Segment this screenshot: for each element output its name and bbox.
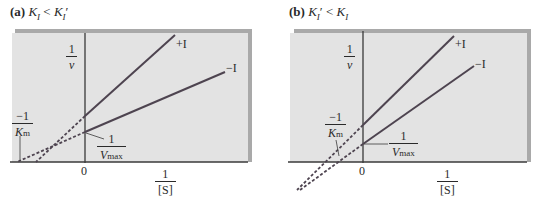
panel-b-vmax-label: 1Vmax — [389, 130, 418, 158]
panel-a-y-label-num: 1 — [67, 43, 77, 56]
panel-b-title-k1-prime: ′ — [320, 4, 323, 19]
panel-a-title: (a) KI < KI′ — [10, 4, 68, 22]
panel-b-km-den-sub: m — [336, 129, 343, 139]
panel-a-y-label-den: v — [66, 56, 77, 71]
panel-a-x-label-den: [S] — [155, 181, 176, 196]
panel-b-title: (b) KI′ < KI — [289, 4, 348, 22]
panel-a-title-k1-sub: I — [37, 12, 40, 22]
panel-b-title-k2: K — [337, 4, 346, 19]
panel-b-x-label-den: [S] — [437, 181, 458, 196]
panel-a-plus-inhibitor-label: +I — [176, 38, 187, 50]
panel-a-title-operator: < — [43, 4, 50, 19]
panel-b-vmax-num: 1 — [398, 130, 408, 143]
panel-a-title-k2-prime: ′ — [66, 4, 69, 19]
panel-b-km-num: −1 — [327, 111, 344, 124]
panel-b-y-label-den: v — [344, 56, 355, 71]
panel-b-plus-inhibitor-label: +I — [455, 38, 466, 50]
panel-a-km-num: −1 — [14, 110, 31, 123]
panel-b-title-operator: < — [326, 4, 333, 19]
panel-b-y-axis-label: 1v — [344, 43, 355, 71]
panel-b-title-k2-sub: I — [345, 12, 348, 22]
panel-b-vmax-den-sub: max — [399, 148, 415, 158]
panel-b-x-axis-label: 1[S] — [437, 168, 458, 196]
panel-b-x-label-num: 1 — [442, 168, 452, 181]
panel-b-title-k1: K — [308, 4, 317, 19]
panel-a-plot — [10, 29, 252, 163]
panel-a-title-k1: K — [28, 4, 37, 19]
panel-a-km-den: K — [15, 125, 23, 139]
panel-b-origin-label: 0 — [359, 165, 365, 177]
panel-a-vmax-den-sub: max — [107, 151, 123, 161]
panel-b-minus-inhibitor-label: −I — [475, 58, 486, 70]
panel-b-y-label-num: 1 — [345, 43, 355, 56]
panel-a-title-k2: K — [54, 4, 63, 19]
panel-a-background — [12, 33, 248, 162]
panel-a-vmax-label: 1Vmax — [97, 133, 126, 161]
panel-a-y-axis-label: 1v — [66, 43, 77, 71]
panel-a-km-den-sub: m — [23, 128, 30, 138]
panel-a-x-axis-label: 1[S] — [155, 168, 176, 196]
panel-b-km-label: −1Km — [325, 111, 346, 139]
panel-a-title-prefix: (a) — [10, 4, 25, 19]
panel-a-x-label-num: 1 — [160, 168, 170, 181]
panel-b-plot — [288, 29, 531, 190]
panel-b-title-prefix: (b) — [289, 4, 305, 19]
panel-a-minus-inhibitor-label: −I — [226, 62, 237, 74]
panel-b-km-den: K — [328, 126, 336, 140]
panel-a-origin-label: 0 — [81, 165, 87, 177]
panel-a-km-label: −1Km — [12, 110, 33, 138]
panel-a-vmax-num: 1 — [106, 133, 116, 146]
